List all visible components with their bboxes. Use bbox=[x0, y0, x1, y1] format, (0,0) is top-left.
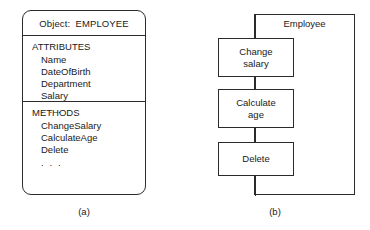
operation-label: Change salary bbox=[239, 46, 272, 69]
attributes-section: ATTRIBUTES Name DateOfBirth Department S… bbox=[23, 36, 145, 102]
figure-object-employee: Object: EMPLOYEE ATTRIBUTES Name DateOfB… bbox=[0, 0, 370, 230]
operation-box-calculate-age: Calculate age bbox=[218, 89, 294, 128]
caption-b: (b) bbox=[245, 206, 305, 217]
operation-label: Calculate age bbox=[236, 97, 276, 120]
list-item: Department bbox=[41, 78, 145, 90]
connector-line-calculate-to-delete bbox=[255, 127, 256, 143]
methods-ellipsis: . . . bbox=[41, 156, 145, 169]
list-item: Name bbox=[41, 54, 145, 66]
methods-section: METHODS ChangeSalary CalculateAge Delete… bbox=[23, 102, 145, 194]
operation-label-line1: Change bbox=[239, 46, 272, 57]
operation-label-line1: Delete bbox=[242, 153, 269, 165]
operation-box-delete: Delete bbox=[218, 142, 294, 176]
employee-frame-label: Employee bbox=[254, 18, 355, 29]
object-card: Object: EMPLOYEE ATTRIBUTES Name DateOfB… bbox=[22, 10, 146, 195]
methods-section-title: METHODS bbox=[32, 107, 145, 120]
list-item: ChangeSalary bbox=[41, 120, 145, 132]
object-card-title: Object: EMPLOYEE bbox=[39, 18, 128, 29]
list-item: CalculateAge bbox=[41, 132, 145, 144]
operation-label-line2: age bbox=[248, 109, 264, 120]
connector-line-change-to-calculate bbox=[255, 76, 256, 90]
list-item: DateOfBirth bbox=[41, 66, 145, 78]
object-card-header: Object: EMPLOYEE bbox=[23, 11, 145, 36]
operation-box-change-salary: Change salary bbox=[218, 38, 294, 77]
methods-list: ChangeSalary CalculateAge Delete . . . bbox=[32, 120, 145, 170]
list-item: Delete bbox=[41, 144, 145, 156]
attributes-section-title: ATTRIBUTES bbox=[32, 41, 145, 54]
connector-line-top bbox=[255, 14, 256, 40]
caption-a: (a) bbox=[54, 206, 114, 217]
operation-label-line2: salary bbox=[243, 58, 268, 69]
connector-line-bottom bbox=[255, 175, 256, 196]
list-item: Salary bbox=[41, 90, 145, 102]
operation-label-line1: Calculate bbox=[236, 97, 276, 108]
